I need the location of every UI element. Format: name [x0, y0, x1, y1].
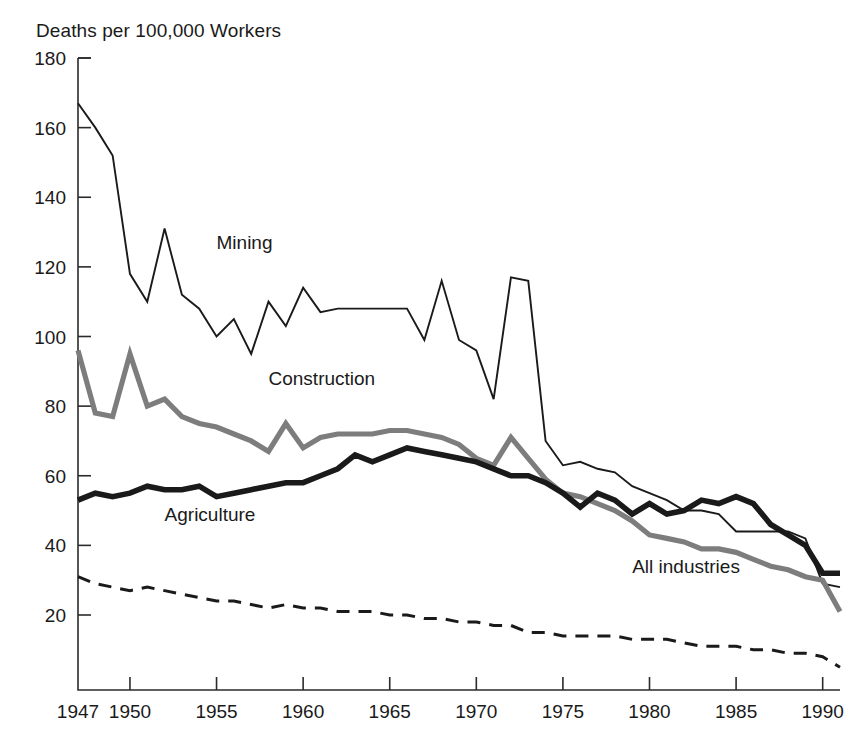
y-tick-label: 60: [45, 466, 66, 487]
series-label-all-industries: All industries: [632, 556, 740, 577]
series-lines: [78, 103, 840, 667]
y-tick-label: 100: [34, 327, 66, 348]
x-tick-label: 1950: [109, 701, 151, 722]
x-tick-label: 1975: [542, 701, 584, 722]
chart-figure: Deaths per 100,000 Workers 2040608010012…: [0, 0, 856, 748]
series-label-mining: Mining: [217, 232, 273, 253]
x-tick-label: 1980: [628, 701, 670, 722]
x-tick-label: 1947: [57, 701, 99, 722]
y-tick-label: 120: [34, 257, 66, 278]
series-annotations: MiningConstructionAgricultureAll industr…: [165, 232, 740, 577]
y-tick-label: 40: [45, 535, 66, 556]
x-tick-label: 1990: [802, 701, 844, 722]
x-axis-tick-labels: 1947195019551960196519701975198019851990: [57, 701, 844, 722]
series-label-agriculture: Agriculture: [165, 504, 256, 525]
line-chart-plot: 20406080100120140160180 1947195019551960…: [0, 0, 856, 748]
y-tick-label: 20: [45, 605, 66, 626]
x-tick-label: 1985: [715, 701, 757, 722]
y-axis-tick-marks: [78, 58, 91, 615]
series-line-all-industries: [78, 577, 840, 668]
y-tick-label: 180: [34, 48, 66, 69]
x-tick-label: 1960: [282, 701, 324, 722]
x-axis-tick-marks: [130, 677, 823, 690]
y-tick-label: 160: [34, 118, 66, 139]
x-tick-label: 1965: [369, 701, 411, 722]
y-tick-label: 80: [45, 396, 66, 417]
x-tick-label: 1970: [455, 701, 497, 722]
y-axis-tick-labels: 20406080100120140160180: [34, 48, 66, 626]
y-tick-label: 140: [34, 187, 66, 208]
series-label-construction: Construction: [269, 368, 376, 389]
x-tick-label: 1955: [195, 701, 237, 722]
